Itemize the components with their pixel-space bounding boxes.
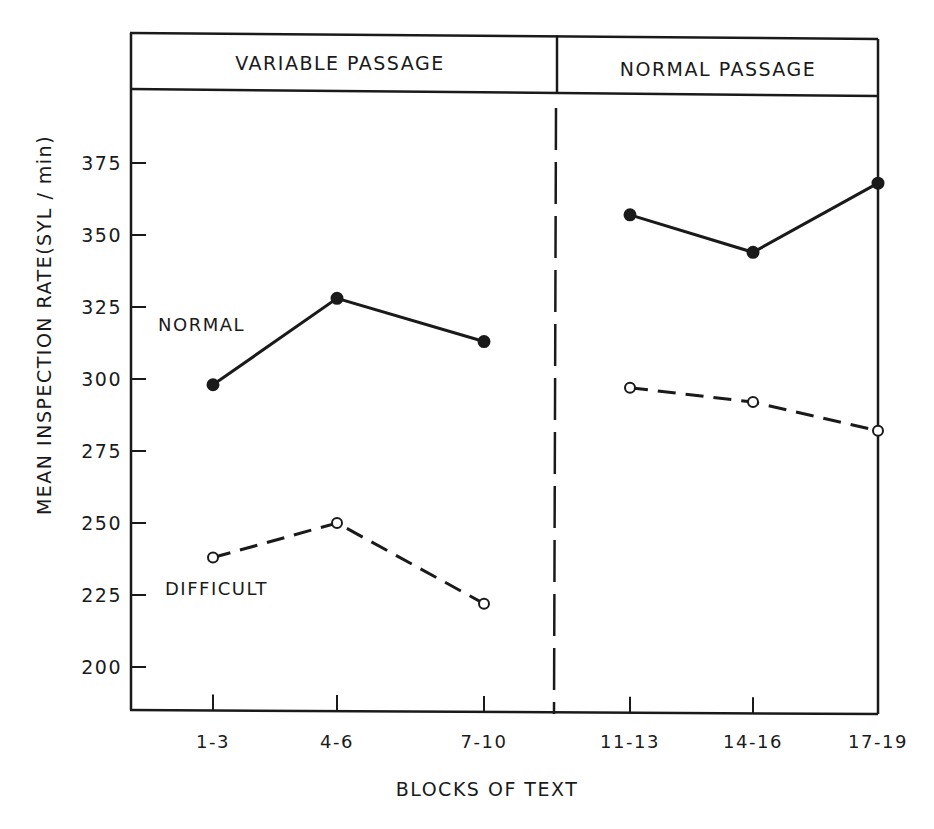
y-axis-title: MEAN INSPECTION RATE(SYL / min)	[33, 135, 55, 515]
chart: VARIABLE PASSAGE NORMAL PASSAGE 20022525…	[0, 0, 934, 829]
series-line	[213, 298, 484, 384]
x-axis: 1-34-67-1011-1314-1617-19	[196, 694, 908, 752]
y-tick-label: 375	[81, 152, 122, 174]
x-tick-label: 4-6	[320, 731, 354, 752]
data-point	[332, 293, 343, 304]
y-tick-label: 250	[81, 512, 122, 534]
x-tick-label: 1-3	[196, 731, 230, 752]
panel-divider	[554, 108, 556, 714]
data-point	[625, 383, 635, 393]
data-point	[479, 336, 490, 347]
series-normal	[208, 178, 884, 391]
data-point	[748, 397, 758, 407]
series-label-normal: NORMAL	[158, 314, 245, 335]
x-tick-label: 14-16	[723, 731, 783, 752]
plot-frame	[130, 33, 878, 714]
x-tick-label: 11-13	[600, 731, 660, 752]
y-tick-label: 300	[81, 368, 122, 390]
y-tick-label: 325	[81, 296, 122, 318]
data-point	[332, 518, 342, 528]
x-axis-title: BLOCKS OF TEXT	[396, 778, 579, 800]
series-line	[630, 388, 878, 431]
series-label-difficult: DIFFICULT	[165, 578, 268, 599]
y-tick-label: 200	[81, 656, 122, 678]
panel-header: VARIABLE PASSAGE NORMAL PASSAGE	[130, 33, 878, 96]
data-point	[873, 426, 883, 436]
data-point	[873, 178, 884, 189]
x-tick-label: 7-10	[461, 731, 508, 752]
y-axis: 200225250275300325350375	[81, 152, 146, 678]
y-tick-label: 275	[81, 440, 122, 462]
panel-label-normal: NORMAL PASSAGE	[620, 58, 817, 80]
data-point	[748, 247, 759, 258]
data-point	[479, 599, 489, 609]
series-group	[208, 178, 884, 609]
data-point	[208, 553, 218, 563]
x-tick-label: 17-19	[848, 731, 908, 752]
series-difficult	[208, 383, 883, 609]
data-point	[208, 379, 219, 390]
series-line	[630, 183, 878, 252]
data-point	[625, 209, 636, 220]
panel-label-variable: VARIABLE PASSAGE	[235, 52, 444, 74]
y-tick-label: 350	[81, 224, 122, 246]
y-tick-label: 225	[81, 584, 122, 606]
